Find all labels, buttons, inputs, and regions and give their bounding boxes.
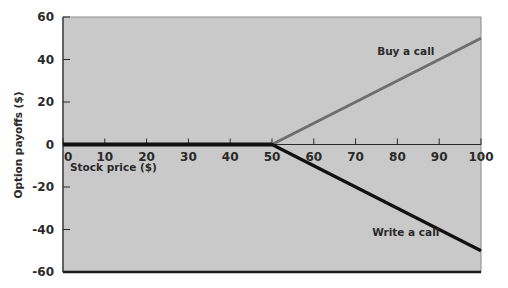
- y-axis-title: Option payoffs ($): [12, 91, 24, 198]
- y-tick-label: 0: [46, 138, 54, 152]
- x-tick-label: 80: [389, 150, 406, 164]
- option-payoff-chart: 6040200-20-40-60 0102030405060708090100 …: [0, 0, 508, 288]
- x-tick-label: 70: [347, 150, 364, 164]
- annotation-label: Buy a call: [377, 45, 434, 57]
- x-tick-label: 90: [431, 150, 448, 164]
- annotation-label: Write a call: [372, 226, 439, 238]
- y-tick-label: 60: [37, 10, 54, 24]
- y-tick-label: -20: [32, 180, 54, 194]
- x-tick-label: 100: [468, 150, 493, 164]
- y-tick-label: -40: [32, 223, 54, 237]
- x-axis-title: Stock price ($): [70, 161, 157, 173]
- x-tick-label: 50: [264, 150, 281, 164]
- y-tick-label: 20: [37, 95, 54, 109]
- y-tick-label: -60: [32, 265, 54, 279]
- x-tick-label: 30: [180, 150, 197, 164]
- y-tick-label: 40: [37, 53, 54, 67]
- x-tick-label: 40: [222, 150, 239, 164]
